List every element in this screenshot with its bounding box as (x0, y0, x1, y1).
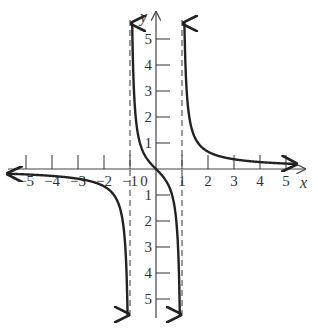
y-tick-label: 5 (145, 31, 153, 47)
y-tick-label: 4 (145, 57, 153, 73)
y-tick-label: 5 (145, 291, 153, 307)
x-axis-label: x (299, 174, 307, 191)
function-graph: −5−4−3−2−10123455432112345 x y (0, 0, 318, 328)
y-tick-label: 1 (145, 135, 153, 151)
curve-branch (183, 23, 296, 164)
x-tick-label: 2 (204, 173, 212, 189)
y-tick-label: 2 (145, 213, 153, 229)
x-tick-label: −1 (122, 173, 138, 189)
x-tick-label: 1 (178, 173, 186, 189)
y-tick-label: 4 (145, 265, 153, 281)
y-axis-label: y (138, 8, 148, 26)
y-tick-label: 3 (145, 239, 153, 255)
curve-branch (8, 174, 129, 315)
x-tick-label: 4 (256, 173, 264, 189)
y-tick-label: 2 (145, 109, 153, 125)
x-tick-label: 3 (230, 173, 238, 189)
y-tick-label: 1 (145, 187, 153, 203)
y-tick-label: 3 (145, 83, 153, 99)
x-tick-label: 5 (282, 173, 290, 189)
x-tick-label: −3 (70, 173, 86, 189)
